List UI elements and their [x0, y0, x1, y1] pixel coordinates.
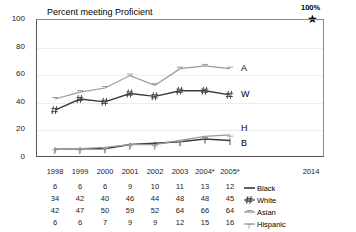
star-annotation-label: 100%	[301, 3, 320, 12]
table-cell: 16	[213, 218, 247, 227]
legend-label: White	[257, 196, 276, 205]
legend-label: Hispanic	[257, 220, 286, 229]
series-end-label-asian: A	[241, 63, 247, 73]
chart-root: Percent meeting Proficient 100% ★ 100806…	[0, 0, 356, 232]
y-axis-tick-label: 0	[1, 152, 25, 161]
series-end-label-hispanic: H	[241, 123, 248, 133]
series-lines	[36, 19, 324, 157]
legend-marker-dash-dark-icon	[243, 183, 256, 193]
legend-item-hispanic[interactable]: Hispanic	[243, 219, 286, 229]
table-cell: 64	[213, 206, 247, 215]
y-axis-tick-label: 80	[1, 42, 25, 51]
x-axis-tick-label-future: 2014	[294, 167, 328, 176]
legend-label: Black	[257, 184, 275, 193]
x-axis-tick-label: 2005*	[213, 167, 247, 176]
series-end-label-black: B	[241, 138, 247, 148]
series-end-label-white: W	[241, 89, 250, 99]
series-hispanic	[52, 135, 233, 154]
table-cell: 12	[213, 182, 247, 191]
chart-title: Percent meeting Proficient	[47, 7, 153, 17]
legend-item-black[interactable]: Black	[243, 183, 275, 193]
table-row: 66799121516Hispanic	[0, 218, 356, 230]
data-table: 666910111312Black3442404644484845White42…	[0, 182, 356, 230]
y-axis-tick-label: 60	[1, 69, 25, 78]
y-axis-tick-label: 100	[1, 14, 25, 23]
legend-marker-tee-icon	[243, 219, 256, 229]
series-black	[55, 138, 230, 154]
legend-marker-hash-icon	[243, 195, 256, 205]
table-row: 666910111312Black	[0, 182, 356, 194]
legend-item-asian[interactable]: Asian	[243, 207, 276, 217]
legend-item-white[interactable]: White	[243, 195, 276, 205]
table-row: 3442404644484845White	[0, 194, 356, 206]
table-row: 4247505952646664Asian	[0, 206, 356, 218]
legend-marker-dash-light-icon	[243, 207, 256, 217]
y-axis-tick-label: 40	[1, 97, 25, 106]
legend-label: Asian	[257, 208, 276, 217]
table-cell: 45	[213, 194, 247, 203]
y-axis-tick-label: 20	[1, 124, 25, 133]
